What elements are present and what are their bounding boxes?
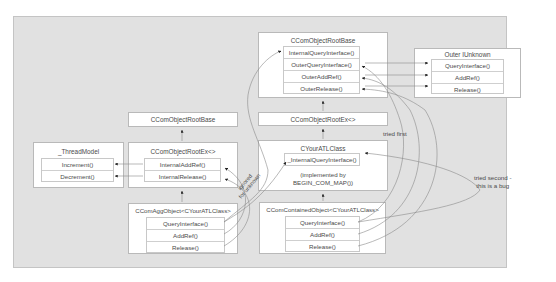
label-line: tried second -	[474, 174, 512, 182]
tried-second-curve	[358, 153, 480, 222]
label-tried-first: tried first	[383, 130, 407, 138]
label-tried-second: tried second - this is a bug	[474, 174, 512, 190]
agg-qi-curve	[224, 51, 281, 222]
label-line: this is a bug	[474, 182, 512, 190]
agg-addref-curve	[224, 168, 246, 234]
connector-lines	[0, 0, 556, 282]
